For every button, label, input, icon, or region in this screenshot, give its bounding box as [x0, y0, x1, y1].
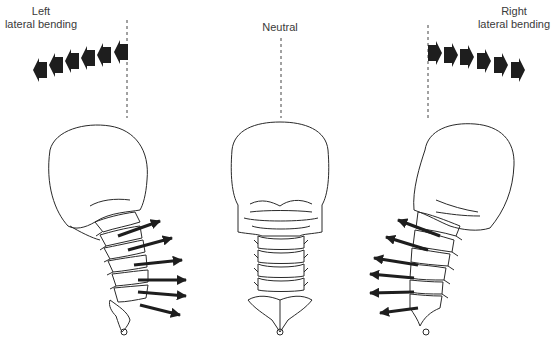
- force-arrows-right: [370, 220, 440, 313]
- left-bending-arrows: [33, 40, 128, 82]
- skull-neutral: [231, 122, 329, 335]
- figure-canvas: [0, 0, 557, 343]
- right-bending-arrows: [428, 41, 525, 82]
